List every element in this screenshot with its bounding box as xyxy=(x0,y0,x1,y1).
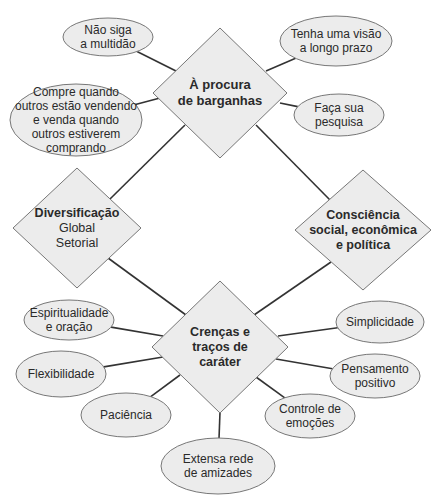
label-line: social, econômica xyxy=(309,223,417,238)
leaf-connector-spirituality xyxy=(111,327,163,336)
label-line: e venda quando xyxy=(15,113,137,127)
label-line: Pensamento xyxy=(341,362,408,376)
ellipse-label-spirituality: Espiritualidade e oração xyxy=(30,306,109,334)
leaf-connector-emotional-control xyxy=(256,377,285,398)
label-line: outros estão vendendo xyxy=(15,99,137,113)
label-line: Diversificação xyxy=(35,206,120,221)
connector-awareness-beliefs xyxy=(254,262,331,315)
label-line: comprando xyxy=(15,141,137,155)
ellipse-label-buy-sell: Compre quando outros estão vendendo e ve… xyxy=(15,85,137,155)
diamond-label-diversification: Diversificação Global Setorial xyxy=(35,206,120,251)
diamond-label-bargains: À procura de barganhas xyxy=(178,77,263,109)
leaf-connector-positive-thinking xyxy=(276,359,333,369)
ellipse-label-network-friends: Extensa rede de amizades xyxy=(183,452,254,480)
label-line: Crenças e xyxy=(190,325,250,340)
label-line: pesquisa xyxy=(314,115,363,129)
leaf-connector-buy-sell xyxy=(135,98,160,104)
label-line: Não siga xyxy=(80,23,135,37)
ellipse-label-dont-follow-crowd: Não siga a multidão xyxy=(80,23,135,51)
label-line: Compre quando xyxy=(15,85,137,99)
label-line: e oração xyxy=(30,320,109,334)
label-line: Paciência xyxy=(100,408,152,422)
label-line: Espiritualidade xyxy=(30,306,109,320)
label-line: outros estiverem xyxy=(15,127,137,141)
ellipse-label-flexibility: Flexibilidade xyxy=(28,367,95,381)
leaf-connector-simplicity xyxy=(278,328,338,336)
label-line: Global xyxy=(35,221,120,236)
label-line: Simplicidade xyxy=(346,315,414,329)
label-line: de amizades xyxy=(183,466,254,480)
diamond-label-awareness: Consciência social, econômica e política xyxy=(309,208,417,253)
label-line: Extensa rede xyxy=(183,452,254,466)
leaf-connector-long-term-vision xyxy=(266,58,296,71)
leaf-connector-network-friends xyxy=(219,412,220,438)
leaf-connector-research xyxy=(280,103,298,107)
label-line: Setorial xyxy=(35,236,120,251)
label-line: a longo prazo xyxy=(291,41,382,55)
leaf-connector-dont-follow-crowd xyxy=(137,52,176,71)
label-line: emoções xyxy=(279,416,341,430)
ellipse-label-simplicity: Simplicidade xyxy=(346,315,414,329)
diamond-label-beliefs: Crenças e traços de caráter xyxy=(190,325,250,370)
label-line: À procura xyxy=(178,77,263,93)
ellipse-label-emotional-control: Controle de emoções xyxy=(279,402,341,430)
label-line: de barganhas xyxy=(178,93,263,109)
label-line: Consciência xyxy=(309,208,417,223)
label-line: a multidão xyxy=(80,37,135,51)
ellipse-label-long-term-vision: Tenha uma visão a longo prazo xyxy=(291,27,382,55)
leaf-connector-patience xyxy=(151,375,180,397)
label-line: positivo xyxy=(341,376,408,390)
ellipse-label-research: Faça sua pesquisa xyxy=(314,101,363,129)
ellipse-label-positive-thinking: Pensamento positivo xyxy=(341,362,408,390)
connector-diversification-beliefs xyxy=(108,258,186,315)
connector-bargains-awareness xyxy=(256,125,330,200)
label-line: caráter xyxy=(190,355,250,370)
label-line: Faça sua xyxy=(314,101,363,115)
label-line: Flexibilidade xyxy=(28,367,95,381)
label-line: traços de xyxy=(190,340,250,355)
ellipse-label-patience: Paciência xyxy=(100,408,152,422)
label-line: Controle de xyxy=(279,402,341,416)
label-line: e política xyxy=(309,238,417,253)
leaf-connector-flexibility xyxy=(104,357,163,367)
label-line: Tenha uma visão xyxy=(291,27,382,41)
